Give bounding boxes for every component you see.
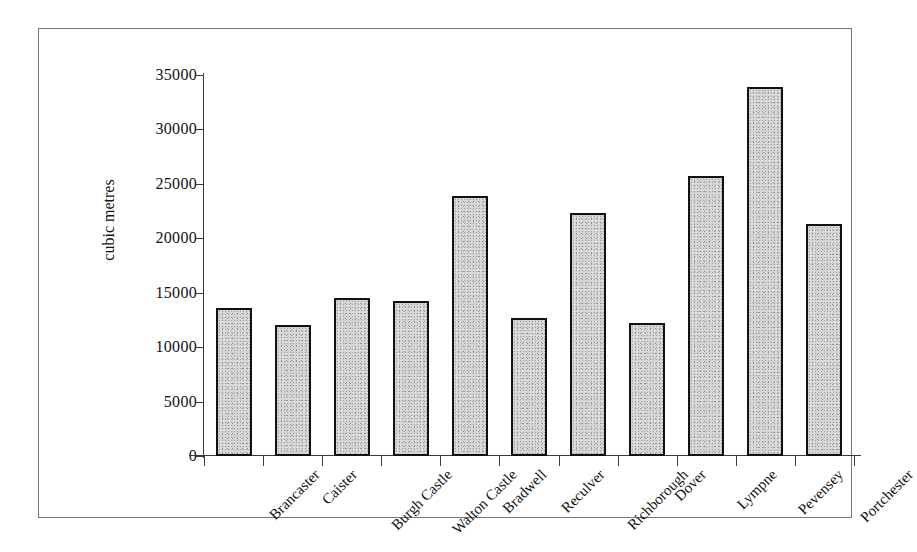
y-tick-mark	[195, 347, 204, 348]
x-category-label: Portchester	[858, 467, 916, 525]
bar	[216, 308, 252, 456]
x-tick-mark	[204, 456, 205, 466]
x-category-label-text: Reculver	[559, 467, 608, 516]
x-category-label: Burgh Castle	[389, 467, 455, 533]
x-category-label-text: Lympne	[735, 467, 780, 512]
y-tick-mark	[195, 184, 204, 185]
x-tick-mark	[381, 456, 382, 466]
x-category-label-text: Brancaster	[266, 467, 322, 523]
bar	[629, 323, 665, 456]
y-tick-mark	[195, 75, 204, 76]
bar	[275, 325, 311, 456]
x-tick-mark	[736, 456, 737, 466]
y-tick-label: 35000	[156, 67, 198, 83]
x-tick-mark	[499, 456, 500, 466]
x-tick-mark	[854, 456, 855, 466]
bar	[511, 318, 547, 456]
x-category-label: Reculver	[559, 467, 608, 516]
x-tick-mark	[795, 456, 796, 466]
chart-frame: cubic metres 350003000025000200001500010…	[38, 28, 852, 518]
y-axis-tick-labels: 35000300002500020000150001000050000	[99, 75, 197, 456]
x-category-label-text: Burgh Castle	[389, 467, 455, 533]
x-tick-mark	[440, 456, 441, 466]
y-tick-mark	[195, 293, 204, 294]
x-category-label-text: Caister	[319, 467, 360, 508]
y-tick-label: 30000	[156, 121, 198, 137]
bar	[393, 301, 429, 456]
plot-area	[204, 75, 854, 456]
x-tick-mark	[559, 456, 560, 466]
y-tick-label: 5000	[164, 394, 197, 410]
y-tick-label: 10000	[156, 339, 198, 355]
y-tick-label: 20000	[156, 230, 198, 246]
bar	[452, 196, 488, 456]
y-tick-mark	[195, 129, 204, 130]
x-tick-mark	[322, 456, 323, 466]
y-tick-mark	[195, 238, 204, 239]
x-axis-category-labels: BrancasterCaisterBurgh CastleWalton Cast…	[204, 467, 854, 547]
y-tick-mark	[195, 456, 204, 457]
x-category-label-text: Pevensey	[796, 467, 847, 518]
y-tick-mark	[195, 402, 204, 403]
bar	[688, 176, 724, 456]
x-tick-mark	[618, 456, 619, 466]
x-category-label: Lympne	[735, 467, 780, 512]
bar	[747, 87, 783, 456]
x-tick-mark	[263, 456, 264, 466]
x-tick-mark	[677, 456, 678, 466]
y-tick-label: 25000	[156, 176, 198, 192]
x-category-label: Caister	[319, 467, 360, 508]
x-category-label: Pevensey	[796, 467, 847, 518]
bar	[570, 213, 606, 456]
y-tick-label: 15000	[156, 285, 198, 301]
x-category-label-text: Portchester	[858, 467, 916, 525]
x-category-label: Brancaster	[266, 467, 322, 523]
bar	[806, 224, 842, 456]
bar	[334, 298, 370, 456]
